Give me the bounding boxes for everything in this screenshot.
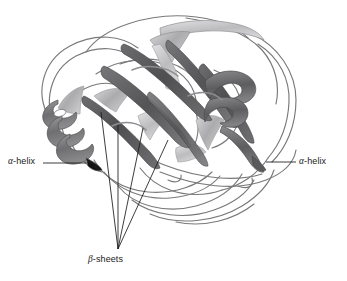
alpha-label-text-left: -helix [13,156,35,166]
beta-leader-1 [101,112,118,249]
beta-leader-3 [118,128,143,249]
protein-ribbon-figure [0,0,347,281]
label-alpha-helix-left: α-helix [8,156,35,166]
beta-label-text: -sheets [93,254,123,264]
alpha-label-text-right: -helix [304,156,326,166]
coil-bottom-right [140,168,222,195]
label-beta-sheets: β-sheets [88,254,123,264]
label-alpha-helix-right: α-helix [299,156,326,166]
